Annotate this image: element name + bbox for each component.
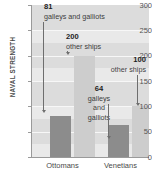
bar-ottomans-galleys[interactable] <box>50 116 71 157</box>
bar-venetians-galleys[interactable] <box>108 125 129 157</box>
y-axis-title-wrap: NAVAL STRENGTH <box>1 36 19 98</box>
annotation-venetians-galleys-desc-3: galliots <box>75 113 123 123</box>
naval-strength-bar-chart: 300 250 200 150 100 50 0 NAVAL STRENGTH … <box>0 0 152 180</box>
annotation-ottomans-other-ships-desc: other ships <box>66 42 152 52</box>
y-tick-mark-100 <box>28 106 31 107</box>
y-tick-mark-150 <box>28 81 31 82</box>
leader-arrow-ottomans-galleys <box>42 110 46 113</box>
annotation-venetians-other-ships-value: 100 <box>92 55 146 65</box>
leader-arrow-venetians-galleys <box>107 136 111 139</box>
y-tick-label-150: 150 <box>128 78 152 85</box>
y-tick-mark-200 <box>28 56 31 57</box>
annotation-ottomans-other-ships: 200 other ships <box>66 32 152 51</box>
y-tick-mark-300 <box>28 5 31 6</box>
annotation-venetians-other-ships: 100 other ships <box>92 55 146 74</box>
leader-arrow-venetians-other-ships <box>136 103 140 106</box>
x-tick-label-ottomans: Ottomans <box>31 161 94 170</box>
annotation-venetians-galleys-value: 64 <box>75 84 123 94</box>
y-tick-label-50: 50 <box>128 128 152 135</box>
y-axis-title: NAVAL STRENGTH <box>9 37 16 98</box>
y-tick-mark-0 <box>28 157 31 158</box>
leader-line-ottomans-galleys <box>43 22 44 111</box>
leader-line-venetians-other-ships <box>137 75 138 104</box>
x-tick-label-venetians: Venetians <box>89 161 152 170</box>
annotation-venetians-other-ships-desc: other ships <box>92 65 146 75</box>
y-tick-label-0: 0 <box>128 154 152 161</box>
annotation-venetians-galleys-desc-2: and <box>75 103 123 113</box>
leader-arrow-ottomans-other-ships <box>66 52 70 55</box>
annotation-venetians-galleys: 64 galleys and galliots <box>75 84 123 122</box>
annotation-ottomans-galleys-value: 81 <box>44 2 148 12</box>
y-tick-mark-250 <box>28 30 31 31</box>
annotation-ottomans-galleys-desc: galleys and galliots <box>44 12 148 22</box>
annotation-ottomans-galleys: 81 galleys and galliots <box>44 2 148 21</box>
annotation-venetians-galleys-desc-1: galleys <box>75 94 123 104</box>
annotation-ottomans-other-ships-value: 200 <box>66 32 152 42</box>
leader-line-venetians-galleys <box>108 104 109 137</box>
y-tick-mark-50 <box>28 132 31 133</box>
y-tick-label-100: 100 <box>128 103 152 110</box>
